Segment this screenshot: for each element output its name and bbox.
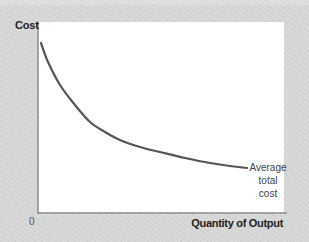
curve-label-average-total-cost: Average total cost (248, 161, 288, 200)
curve-label-line-1: Average (248, 161, 288, 174)
x-axis-label: Quantity of Output (191, 217, 283, 229)
curve-label-line-3: cost (248, 187, 288, 200)
average-total-cost-curve (41, 43, 247, 168)
curve-label-line-2: total (248, 174, 288, 187)
y-axis-label: Cost (15, 19, 39, 31)
chart-svg (0, 0, 309, 242)
origin-label: 0 (29, 216, 35, 227)
